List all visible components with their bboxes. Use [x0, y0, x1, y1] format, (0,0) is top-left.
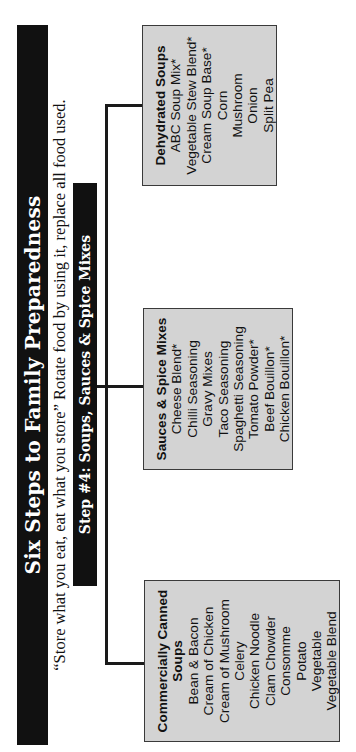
list-item: Cream of Chicken: [201, 581, 216, 741]
category-box-sauces-spice-mixes: Sauces & Spice Mixes Cheese Blend* Chill…: [143, 308, 293, 470]
list-item: Potato: [294, 581, 309, 741]
list-item: Mushroom: [230, 26, 245, 185]
category-heading: Sauces & Spice Mixes: [154, 309, 169, 469]
list-item: Celery: [232, 581, 247, 741]
list-item: Cream of Mushroom: [217, 581, 232, 741]
category-heading: Soups: [170, 581, 185, 741]
motto-subtitle: “Store what you eat, eat what you store”…: [50, 25, 70, 745]
list-item: Gravy Mixes: [200, 309, 215, 469]
list-item: Beef Bouillon*: [262, 309, 277, 469]
step-title: Step #4: Soups, Sauces & Spice Mixes: [77, 235, 93, 534]
category-heading: Commercially Canned: [155, 581, 170, 741]
list-item: Cream Soup Base*: [199, 26, 214, 185]
list-item: Bean & Bacon: [186, 581, 201, 741]
list-item: Tomato Powder*: [246, 309, 261, 469]
list-item: Split Pea: [261, 26, 276, 185]
list-item: Vegetable Stew Blend*: [184, 26, 199, 185]
category-box-dehydrated-soups: Dehydrated Soups ABC Soup Mix* Vegetable…: [142, 25, 277, 186]
list-item: Taco Seasoning: [216, 309, 231, 469]
category-box-canned-soups: Commercially Canned Soups Bean & Bacon C…: [144, 580, 340, 742]
list-item: Consomme: [278, 581, 293, 741]
list-item: Onion: [245, 26, 260, 185]
list-item: ABC Soup Mix*: [168, 26, 183, 185]
list-item: Chicken Noodle: [247, 581, 262, 741]
list-item: Chicken Bouillon*: [277, 309, 292, 469]
connector-branch-canned: [105, 662, 144, 665]
list-item: Clam Chowder: [263, 581, 278, 741]
list-item: Cheese Blend*: [169, 309, 184, 469]
connector-branch-sauces: [97, 385, 143, 388]
list-item: Spaghetti Seasoning: [231, 309, 246, 469]
category-heading: Dehydrated Soups: [153, 26, 168, 185]
step-banner: Step #4: Soups, Sauces & Spice Mixes: [73, 183, 97, 586]
connector-branch-dehydrated: [105, 104, 142, 107]
page-title: Six Steps to Family Preparedness: [21, 196, 45, 575]
list-item: Corn: [215, 26, 230, 185]
list-item: Chilli Seasoning: [185, 309, 200, 469]
list-item: Vegetable Blend: [324, 581, 339, 741]
rotated-document-page: Six Steps to Family Preparedness “Store …: [0, 0, 356, 752]
list-item: Vegetable: [309, 581, 324, 741]
title-banner: Six Steps to Family Preparedness: [17, 25, 48, 745]
